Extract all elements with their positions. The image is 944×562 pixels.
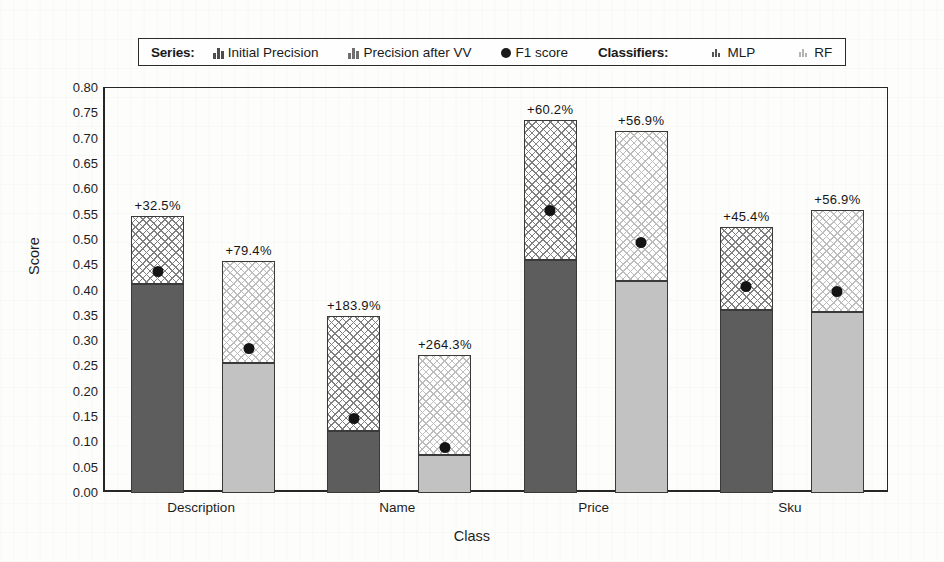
y-axis-title: Score <box>26 216 42 296</box>
bar-tick-light-icon <box>799 48 808 58</box>
bar-price-rf <box>615 131 668 493</box>
bar-segment-initial-precision <box>720 310 773 493</box>
y-axis-tick-label: 0.65 <box>73 155 98 170</box>
y-axis-tick-label: 0.60 <box>73 181 98 196</box>
f1-score-marker <box>348 413 359 424</box>
x-axis-tick-label-name: Name <box>379 500 415 515</box>
legend-classifiers-title: Classifiers: <box>598 45 668 60</box>
bar-segment-initial-precision <box>811 312 864 493</box>
legend-series-title: Series: <box>151 45 195 60</box>
growth-label: +79.4% <box>225 243 271 258</box>
f1-score-marker <box>832 286 843 297</box>
y-axis-tick-label: 0.70 <box>73 130 98 145</box>
legend-item-f1-score: F1 score <box>501 45 568 60</box>
bar-name-mlp <box>327 316 380 493</box>
growth-label: +264.3% <box>418 337 472 352</box>
bar-segment-initial-precision <box>524 260 577 493</box>
legend-item-precision-after-vv: Precision after VV <box>348 45 471 60</box>
legend-item-f1-score-label: F1 score <box>515 45 568 60</box>
y-axis-tick-label: 0.00 <box>73 485 98 500</box>
y-axis-tick-label: 0.15 <box>73 409 98 424</box>
legend-item-initial-precision-label: Initial Precision <box>228 45 319 60</box>
bar-description-mlp <box>131 216 184 493</box>
growth-label: +32.5% <box>134 198 180 213</box>
x-axis-tick-label-description: Description <box>167 500 235 515</box>
y-axis-tick-label: 0.20 <box>73 383 98 398</box>
f1-score-marker <box>545 205 556 216</box>
y-axis-tick-label: 0.30 <box>73 333 98 348</box>
growth-label: +56.9% <box>618 113 664 128</box>
chart-figure: Series: Initial Precision Precision afte… <box>0 0 944 562</box>
y-axis-tick-label: 0.55 <box>73 206 98 221</box>
y-axis-tick-label: 0.75 <box>73 105 98 120</box>
bar-segment-initial-precision <box>131 284 184 493</box>
bar-name-rf <box>418 355 471 493</box>
bar-description-rf <box>222 261 275 493</box>
bar-segment-initial-precision <box>615 281 668 493</box>
y-axis-tick-label: 0.80 <box>73 80 98 95</box>
bar-segment-initial-precision <box>418 455 471 493</box>
x-axis-tick-label-price: Price <box>578 500 609 515</box>
plot-area: +32.5%+79.4%+183.9%+264.3%+60.2%+56.9%+4… <box>103 87 888 492</box>
bar-sku-rf <box>811 210 864 494</box>
f1-score-marker <box>741 281 752 292</box>
bar-segment-initial-precision <box>327 431 380 493</box>
legend-item-precision-after-vv-label: Precision after VV <box>363 45 471 60</box>
y-axis-tick-label: 0.25 <box>73 358 98 373</box>
bar-sku-mlp <box>720 227 773 493</box>
y-axis-tick-labels: 0.000.050.100.150.200.250.300.350.400.45… <box>40 87 98 492</box>
legend-item-mlp: MLP <box>712 45 755 60</box>
y-axis-tick-label: 0.05 <box>73 459 98 474</box>
bars-container: +32.5%+79.4%+183.9%+264.3%+60.2%+56.9%+4… <box>105 88 887 490</box>
bar-chart-dark-icon <box>213 47 226 59</box>
bar-segment-precision-after-vv <box>524 120 577 260</box>
bar-segment-initial-precision <box>222 363 275 493</box>
x-axis-tick-label-sku: Sku <box>778 500 801 515</box>
f1-score-marker <box>636 237 647 248</box>
f1-score-marker <box>152 266 163 277</box>
growth-label: +183.9% <box>327 298 381 313</box>
legend-item-mlp-label: MLP <box>727 45 755 60</box>
growth-label: +60.2% <box>527 102 573 117</box>
legend-item-rf-label: RF <box>814 45 832 60</box>
bar-segment-precision-after-vv <box>418 355 471 455</box>
legend-item-rf: RF <box>799 45 832 60</box>
legend-item-initial-precision: Initial Precision <box>213 45 319 60</box>
y-axis-tick-label: 0.40 <box>73 282 98 297</box>
f1-score-marker <box>439 442 450 453</box>
growth-label: +45.4% <box>723 209 769 224</box>
y-axis-tick-label: 0.35 <box>73 307 98 322</box>
y-axis-tick-label: 0.10 <box>73 434 98 449</box>
f1-score-marker <box>243 343 254 354</box>
bar-tick-dark-icon <box>712 48 721 58</box>
filled-circle-icon <box>501 48 511 58</box>
bar-segment-precision-after-vv <box>615 131 668 282</box>
x-axis-title: Class <box>0 528 944 544</box>
chart-legend: Series: Initial Precision Precision afte… <box>138 38 846 66</box>
bar-chart-hatched-icon <box>348 47 361 59</box>
bar-price-mlp <box>524 120 577 493</box>
growth-label: +56.9% <box>814 192 860 207</box>
y-axis-tick-label: 0.45 <box>73 257 98 272</box>
bar-segment-precision-after-vv <box>720 227 773 310</box>
y-axis-tick-label: 0.50 <box>73 231 98 246</box>
